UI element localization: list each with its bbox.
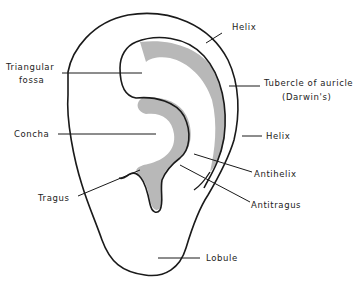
- label-tubercle-line1: Tubercle of auricle: [264, 78, 353, 88]
- label-tragus: Tragus: [38, 193, 69, 203]
- label-lobule: Lobule: [206, 253, 238, 263]
- leader-antitragus: [180, 165, 250, 202]
- label-antihelix: Antihelix: [254, 169, 297, 179]
- label-tubercle-line2: (Darwin's): [282, 92, 331, 102]
- leader-antihelix: [194, 154, 252, 172]
- leader-tragus: [78, 170, 140, 196]
- label-helix-mid: Helix: [266, 131, 290, 141]
- ear-illustration: [0, 0, 361, 281]
- ear-diagram: Helix Triangular fossa Tubercle of auric…: [0, 0, 361, 281]
- label-triangular-fossa-line1: Triangular: [6, 62, 54, 72]
- label-helix-top: Helix: [232, 22, 256, 32]
- label-triangular-fossa-line2: fossa: [19, 75, 44, 85]
- label-concha: Concha: [14, 129, 49, 139]
- label-antitragus: Antitragus: [251, 200, 301, 210]
